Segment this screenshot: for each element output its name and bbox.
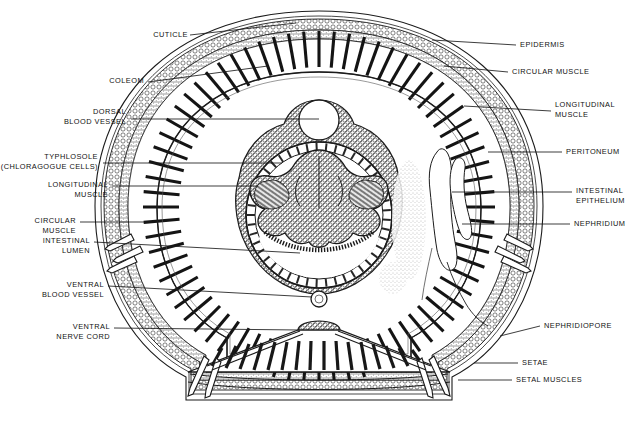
typhlosole-right-pouch [349, 180, 383, 209]
label-typhlosole-line2: (CHLORAGOGUE CELLS) [0, 162, 98, 172]
ventral-blood-vessel [311, 291, 327, 307]
label-intestinal-epithelium-line2: EPITHELIUM [576, 196, 638, 206]
label-setal-muscles: SETAL MUSCLES [516, 375, 620, 385]
label-typhlosole-line1: TYPHLOSOLE [2, 152, 98, 162]
label-setae: SETAE [522, 358, 592, 368]
label-circular-muscle-left-line1: CIRCULAR [4, 216, 76, 226]
label-intestinal-epithelium-line1: INTESTINAL [576, 186, 638, 196]
label-ventral-blood-vessel-line1: VENTRAL [10, 280, 104, 290]
label-longitudinal-muscle-right-line2: MUSCLE [555, 110, 638, 120]
earthworm-cross-section-figure: CUTICLE COLEOM DORSAL BLOOD VESSEL TYPHL… [0, 0, 638, 421]
typhlosole-left-pouch [255, 180, 289, 209]
nephridium-stipple-mass [392, 160, 426, 280]
label-peritoneum: PERITONEUM [566, 147, 638, 157]
label-circular-muscle-right: CIRCULAR MUSCLE [512, 67, 632, 77]
label-ventral-nerve-cord-line1: VENTRAL [16, 322, 110, 332]
nephridium-coil-cluster [379, 262, 407, 294]
label-nephridiopore: NEPHRIDIOPORE [544, 321, 638, 331]
label-nephridium: NEPHRIDIUM [574, 219, 638, 229]
label-ventral-nerve-cord-line2: NERVE CORD [16, 332, 110, 342]
label-circular-muscle-left-line2: MUSCLE [4, 226, 76, 236]
label-longitudinal-muscle-left-line1: LONGITUDINAL [14, 180, 108, 190]
label-intestinal-lumen-line1: INTESTINAL [6, 236, 90, 246]
dorsal-blood-vessel [299, 100, 339, 140]
label-longitudinal-muscle-right-line1: LONGITUDINAL [555, 100, 638, 110]
label-dorsal-blood-vessel-line1: DORSAL [30, 107, 126, 117]
label-ventral-blood-vessel-line2: BLOOD VESSEL [10, 290, 104, 300]
label-intestinal-lumen-line2: LUMEN [6, 246, 90, 256]
label-epidermis: EPIDERMIS [520, 40, 630, 50]
label-longitudinal-muscle-left-line2: MUSCLE [14, 190, 108, 200]
label-dorsal-blood-vessel-line2: BLOOD VESSEL [30, 117, 126, 127]
label-cuticle: CUTICLE [92, 30, 188, 40]
label-coleom: COLEOM [46, 76, 144, 86]
